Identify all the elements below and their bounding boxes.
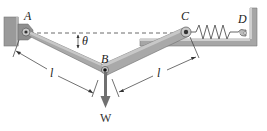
theta-arrow-icon: [77, 35, 80, 49]
label-d: D: [237, 12, 247, 26]
weight-arrow-icon: [101, 72, 111, 108]
label-b: B: [101, 52, 109, 66]
spring: [190, 25, 246, 39]
label-length-left: l: [50, 66, 54, 80]
label-c: C: [181, 9, 190, 23]
pin-c: [181, 27, 191, 37]
pin-a: [22, 28, 30, 36]
bar-bc: [101, 28, 189, 75]
label-theta: θ: [82, 34, 88, 48]
label-weight: W: [100, 111, 112, 125]
linkage-diagram: A B C D θ l l W: [0, 0, 267, 131]
label-a: A: [23, 9, 32, 23]
label-length-right: l: [157, 66, 161, 80]
